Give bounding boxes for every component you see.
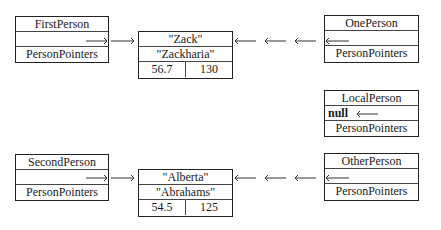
pointer-value: null <box>325 106 418 121</box>
pointer-name: FirstPerson <box>16 17 108 32</box>
record-height: 130 <box>186 62 232 77</box>
pointer-type: PersonPointers <box>325 184 418 199</box>
record-first-name: "Alberta" <box>139 170 232 185</box>
pointer-box-one-person: OnePerson PersonPointers <box>324 15 419 63</box>
record-numbers: 54.5 125 <box>139 200 232 215</box>
record-box-alberta: "Alberta" "Abrahams" 54.5 125 <box>138 169 233 217</box>
pointer-value <box>16 170 108 185</box>
pointer-value <box>325 169 418 184</box>
pointer-box-first-person: FirstPerson PersonPointers <box>15 16 109 63</box>
record-height: 125 <box>186 200 232 215</box>
pointer-box-second-person: SecondPerson PersonPointers <box>15 154 109 201</box>
record-first-name: "Zack" <box>139 32 232 47</box>
pointer-type: PersonPointers <box>16 185 108 200</box>
pointer-type: PersonPointers <box>16 47 108 62</box>
pointer-name: OtherPerson <box>325 154 418 169</box>
record-last-name: "Zackharia" <box>139 47 232 62</box>
pointer-type: PersonPointers <box>325 121 418 136</box>
record-numbers: 56.7 130 <box>139 62 232 77</box>
record-last-name: "Abrahams" <box>139 185 232 200</box>
record-weight: 54.5 <box>139 200 186 215</box>
null-value: null <box>328 106 348 121</box>
pointer-name: OnePerson <box>325 16 418 31</box>
pointer-name: SecondPerson <box>16 155 108 170</box>
pointer-name: LocalPerson <box>325 91 418 106</box>
pointer-box-local-person: LocalPerson null PersonPointers <box>324 90 419 137</box>
pointer-value <box>325 31 418 46</box>
pointer-type: PersonPointers <box>325 46 418 61</box>
record-weight: 56.7 <box>139 62 186 77</box>
pointer-box-other-person: OtherPerson PersonPointers <box>324 153 419 201</box>
pointer-value <box>16 32 108 47</box>
record-box-zack: "Zack" "Zackharia" 56.7 130 <box>138 31 233 79</box>
